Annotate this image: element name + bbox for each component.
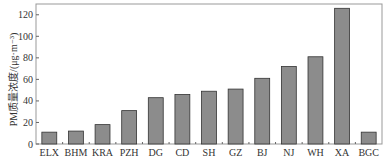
x-tick-label: CD: [175, 147, 189, 158]
y-tick-label: 60: [23, 74, 33, 85]
bar-dg: [148, 98, 163, 144]
y-axis-label: PM质量浓度/(μg·m⁻³): [5, 10, 20, 150]
x-tick-label: GZ: [229, 147, 242, 158]
y-tick-label: 120: [18, 9, 33, 20]
x-tick-label: DG: [149, 147, 163, 158]
y-tick-label: 80: [23, 52, 33, 63]
bar-bhm: [68, 131, 83, 144]
x-tick-label: WH: [307, 147, 324, 158]
y-tick-label: 100: [18, 31, 33, 42]
x-tick-label: ELX: [40, 147, 60, 158]
bar-gz: [228, 89, 243, 144]
bar-bj: [255, 78, 270, 144]
x-tick-label: PZH: [120, 147, 139, 158]
y-tick-label: 40: [23, 95, 33, 106]
x-tick-label: BHM: [65, 147, 88, 158]
bar-pzh: [122, 111, 137, 144]
y-tick-label: 0: [28, 139, 33, 150]
bar-xa: [335, 8, 350, 144]
x-tick-label: KRA: [92, 147, 114, 158]
bar-wh: [308, 57, 323, 144]
x-tick-label: NJ: [283, 147, 294, 158]
x-tick-label: BGC: [358, 147, 379, 158]
bar-sh: [202, 91, 217, 144]
bar-nj: [281, 66, 296, 144]
x-tick-label: BJ: [257, 147, 268, 158]
x-tick-label: SH: [203, 147, 216, 158]
x-tick-label: XA: [335, 147, 350, 158]
bar-kra: [95, 125, 110, 144]
bar-cd: [175, 94, 190, 144]
bar-chart: 020406080100120ELXBHMKRAPZHDGCDSHGZBJNJW…: [0, 0, 384, 165]
bar-elx: [42, 132, 57, 144]
y-tick-label: 20: [23, 117, 33, 128]
chart-canvas: 020406080100120ELXBHMKRAPZHDGCDSHGZBJNJW…: [0, 0, 384, 165]
bar-bgc: [361, 132, 376, 144]
